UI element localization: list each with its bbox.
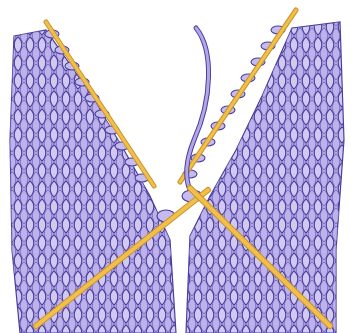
- knitting-illustration: [0, 0, 358, 333]
- illustration-canvas: [0, 0, 358, 333]
